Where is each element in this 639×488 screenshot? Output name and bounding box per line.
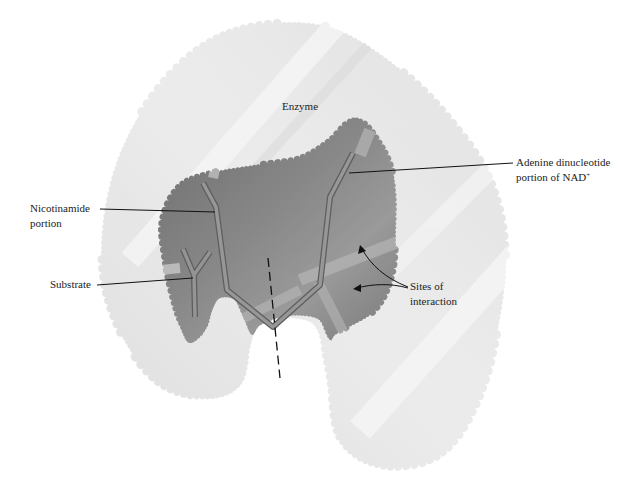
nicotinamide-label-line1: Nicotinamide bbox=[30, 201, 90, 216]
sites-label-line2: interaction bbox=[410, 294, 457, 309]
adenine-label-line1: Adenine dinucleotide bbox=[516, 155, 610, 170]
adenine-label-line2-text: portion of NAD bbox=[516, 171, 586, 183]
sites-label-line1: Sites of bbox=[410, 279, 457, 294]
nad-plus-superscript: + bbox=[586, 171, 590, 179]
enzyme-label: Enzyme bbox=[282, 99, 318, 114]
substrate-label: Substrate bbox=[50, 277, 91, 292]
nicotinamide-label: Nicotinamide portion bbox=[30, 201, 90, 231]
adenine-label-line2: portion of NAD+ bbox=[516, 170, 610, 185]
sites-of-interaction-label: Sites of interaction bbox=[410, 279, 457, 309]
adenine-label: Adenine dinucleotide portion of NAD+ bbox=[516, 155, 610, 185]
nicotinamide-label-line2: portion bbox=[30, 216, 90, 231]
enzyme-diagram bbox=[0, 0, 639, 488]
